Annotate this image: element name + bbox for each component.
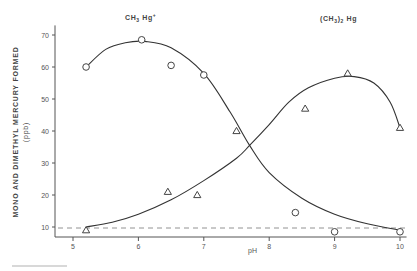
x-tick-label: 8: [267, 243, 271, 250]
y-axis-ticks: 10203040506070: [41, 32, 55, 231]
series-labels: CH3 Hg+(CH3)2 Hg: [125, 12, 357, 24]
x-tick-label: 6: [136, 243, 140, 250]
x-tick-label: 7: [202, 243, 206, 250]
triangle-marker-icon: [396, 124, 403, 130]
x-tick-label: 5: [71, 243, 75, 250]
axis-lines: [55, 25, 407, 237]
series-label-monomethyl: CH3 Hg+: [125, 12, 156, 23]
x-tick-label: 10: [396, 243, 404, 250]
triangle-marker-icon: [82, 227, 89, 233]
triangle-marker-icon: [344, 70, 351, 76]
y-tick-label: 10: [41, 224, 49, 231]
circle-marker-icon: [168, 62, 175, 69]
circle-marker-icon: [83, 64, 90, 71]
chart: MONO AND DIMETHYL MERCURY FORMED (ppb) 1…: [0, 0, 417, 271]
x-axis-ticks: 5678910: [71, 237, 404, 250]
triangle-marker-icon: [194, 191, 201, 197]
y-axis-title: MONO AND DIMETHYL MERCURY FORMED (ppb): [12, 46, 30, 217]
circle-marker-icon: [201, 72, 208, 79]
circle-marker-icon: [331, 229, 338, 236]
y-tick-label: 60: [41, 64, 49, 71]
y-tick-label: 30: [41, 160, 49, 167]
y-tick-label: 70: [41, 32, 49, 39]
svg-text:(ppb): (ppb): [22, 122, 30, 142]
y-tick-label: 50: [41, 96, 49, 103]
monomethyl-fit-curve: [86, 41, 400, 230]
circle-marker-icon: [397, 229, 404, 236]
y-tick-label: 20: [41, 192, 49, 199]
axes: [55, 25, 407, 237]
y-tick-label: 40: [41, 128, 49, 135]
x-axis-title: pH: [248, 247, 257, 255]
x-tick-label: 9: [333, 243, 337, 250]
svg-text:MONO AND DIMETHYL MERCURY FORM: MONO AND DIMETHYL MERCURY FORMED: [12, 46, 19, 217]
circle-marker-icon: [138, 37, 145, 44]
fit-curves: [86, 41, 400, 230]
dimethyl-fit-curve: [86, 76, 400, 227]
triangle-marker-icon: [164, 188, 171, 194]
data-markers: [82, 37, 403, 236]
series-label-dimethyl: (CH3)2 Hg: [320, 15, 357, 24]
triangle-marker-icon: [302, 105, 309, 111]
circle-marker-icon: [292, 209, 299, 216]
figure-caption: [12, 265, 67, 267]
